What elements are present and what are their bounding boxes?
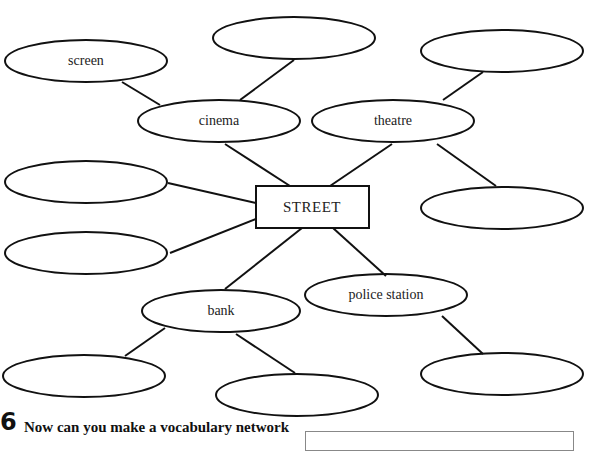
connector-screen-cinema xyxy=(122,82,160,105)
exercise-number: 6 xyxy=(0,410,17,434)
connector-theatre-top xyxy=(443,72,483,100)
node-bank-left-blank[interactable] xyxy=(3,355,165,397)
node-street-left-bottom-blank[interactable] xyxy=(5,232,167,274)
node-theatre-bottom-blank[interactable] xyxy=(421,187,583,229)
node-theatre-top-blank[interactable] xyxy=(421,30,583,72)
connector-street-police xyxy=(333,228,386,276)
node-bank-label: bank xyxy=(207,303,234,318)
connector-bank-left xyxy=(125,328,165,356)
exercise-instruction: Now can you make a vocabulary network xyxy=(24,419,289,436)
connector-left-top-street xyxy=(168,183,256,203)
connector-cinema-blank xyxy=(240,60,294,100)
connector-left-bottom-street xyxy=(170,219,256,253)
node-police-blank[interactable] xyxy=(421,353,583,395)
node-theatre-label: theatre xyxy=(374,113,412,128)
connector-cinema-street xyxy=(225,144,290,186)
node-police-station-label: police station xyxy=(348,287,423,302)
connector-theatre-street xyxy=(330,144,392,186)
hub-label: STREET xyxy=(283,199,341,215)
connector-street-bank xyxy=(225,228,302,289)
answer-box[interactable] xyxy=(305,431,574,451)
node-cinema-label: cinema xyxy=(199,113,240,128)
node-cinema-blank[interactable] xyxy=(213,17,375,59)
connector-bank-right xyxy=(236,334,295,373)
node-street-left-top-blank[interactable] xyxy=(5,161,167,203)
connector-theatre-bottom xyxy=(437,144,496,186)
node-screen-label: screen xyxy=(68,53,104,68)
node-bank-right-blank[interactable] xyxy=(216,374,378,416)
connector-police-blank xyxy=(442,316,483,354)
